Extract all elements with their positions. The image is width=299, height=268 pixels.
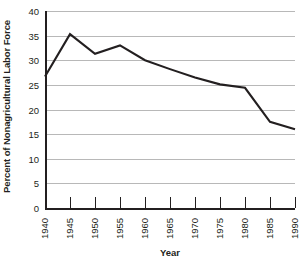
x-axis-tick-label: 1990 [278, 212, 299, 246]
y-axis-tick-label: 25 [28, 79, 39, 90]
x-axis-tick-label-text: 1945 [64, 218, 75, 239]
x-axis-tick [270, 197, 271, 208]
x-axis-title: Year [45, 247, 295, 258]
data-series-line [45, 11, 295, 208]
x-axis-tick [95, 197, 96, 208]
x-axis-tick-label-text: 1975 [214, 218, 225, 239]
x-axis-line [45, 208, 295, 210]
x-axis-tick-label-text: 1970 [189, 218, 200, 239]
y-axis-tick-label: 5 [34, 178, 39, 189]
y-axis-tick-label: 15 [28, 129, 39, 140]
x-axis-tick [170, 197, 171, 208]
y-axis-tick-label: 10 [28, 153, 39, 164]
x-axis-tick-label-text: 1960 [139, 218, 150, 239]
y-axis-tick-labels: 4035302520151050 [14, 0, 42, 214]
x-axis-tick-label-text: 1940 [39, 218, 50, 239]
x-axis-tick [245, 197, 246, 208]
plot-area [45, 11, 295, 208]
x-axis-tick [45, 197, 46, 208]
x-axis-tick-label-text: 1985 [264, 218, 275, 239]
y-axis-tick-label: 35 [28, 30, 39, 41]
x-axis-ticks [45, 197, 295, 208]
y-axis-title: Percent of Nonagricultural Labor Force [0, 0, 14, 212]
x-axis-tick [70, 197, 71, 208]
x-axis-tick-label-text: 1955 [114, 218, 125, 239]
x-axis-tick [295, 197, 296, 208]
x-axis-tick-label-text: 1980 [239, 218, 250, 239]
x-axis-tick [120, 197, 121, 208]
line-chart: Percent of Nonagricultural Labor Force 4… [0, 0, 299, 268]
x-axis-tick-label-text: 1965 [164, 218, 175, 239]
x-axis-tick [195, 197, 196, 208]
y-axis-tick-label: 40 [28, 6, 39, 17]
x-axis-tick-label-text: 1950 [89, 218, 100, 239]
x-axis-tick-label-text: 1990 [289, 218, 299, 239]
x-axis-tick [220, 197, 221, 208]
data-polyline [45, 34, 295, 129]
y-axis-tick-label: 30 [28, 55, 39, 66]
y-axis-tick-label: 20 [28, 104, 39, 115]
x-axis-tick-labels: 1940194519501955196019651970197519801985… [45, 212, 299, 246]
x-axis-tick [145, 197, 146, 208]
y-axis-title-text: Percent of Nonagricultural Labor Force [2, 19, 13, 192]
